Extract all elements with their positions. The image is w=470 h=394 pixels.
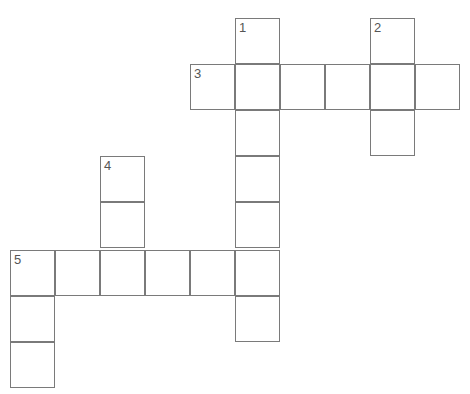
crossword-cell[interactable]: [55, 250, 100, 296]
clue-number: 2: [374, 20, 381, 35]
crossword-cell[interactable]: 4: [100, 156, 145, 202]
crossword-cell[interactable]: 1: [235, 18, 280, 64]
crossword-cell[interactable]: [370, 110, 415, 156]
crossword-cell[interactable]: [280, 64, 325, 110]
clue-number: 5: [14, 252, 21, 267]
crossword-cell[interactable]: [10, 342, 55, 388]
clue-number: 4: [104, 158, 111, 173]
crossword-cell[interactable]: [145, 250, 190, 296]
crossword-cell[interactable]: [235, 250, 280, 296]
crossword-cell[interactable]: 3: [190, 64, 235, 110]
crossword-cell[interactable]: [100, 202, 145, 248]
crossword-cell[interactable]: [415, 64, 460, 110]
crossword-cell[interactable]: [235, 64, 280, 110]
crossword-cell[interactable]: [235, 296, 280, 342]
crossword-cell[interactable]: 2: [370, 18, 415, 64]
crossword-cell[interactable]: [10, 296, 55, 342]
crossword-cell[interactable]: [370, 64, 415, 110]
crossword-cell[interactable]: [100, 250, 145, 296]
clue-number: 1: [239, 20, 246, 35]
clue-number: 3: [194, 66, 201, 81]
crossword-cell[interactable]: [325, 64, 370, 110]
crossword-cell[interactable]: 5: [10, 250, 55, 296]
crossword-cell[interactable]: [235, 110, 280, 156]
crossword-cell[interactable]: [235, 202, 280, 248]
crossword-cell[interactable]: [190, 250, 235, 296]
crossword-cell[interactable]: [235, 156, 280, 202]
